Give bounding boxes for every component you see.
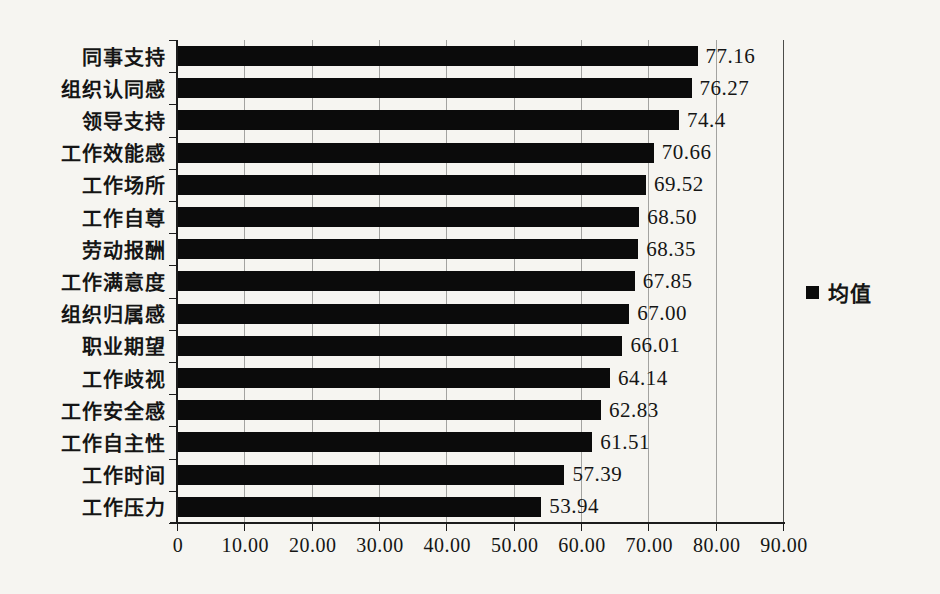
y-axis-tick [169,233,176,234]
y-axis-tick [169,491,176,492]
bar [178,271,635,291]
y-axis-tick [169,72,176,73]
bar [178,465,564,485]
y-axis-tick [169,523,176,524]
x-tick-label: 80.00 [693,534,741,557]
bar [178,400,601,420]
x-axis-line [170,522,785,524]
x-tick-label: 50.00 [491,534,539,557]
category-label: 领导支持 [0,104,166,136]
bar [178,78,692,98]
category-label: 职业期望 [0,330,166,362]
bar [178,207,639,227]
bar-value-label: 61.51 [600,426,650,458]
category-label: 工作场所 [0,169,166,201]
bar [178,497,541,517]
bar-value-label: 70.66 [662,137,712,169]
bar-value-label: 62.83 [609,394,659,426]
bar-value-label: 53.94 [549,491,599,523]
x-axis-tick [312,524,313,531]
y-axis-tick [169,330,176,331]
category-label: 组织归属感 [0,298,166,330]
x-tick-label: 0 [173,534,184,557]
bar [178,239,638,259]
category-label: 工作自尊 [0,201,166,233]
legend-marker-square-icon [806,286,819,299]
bar [178,175,646,195]
x-axis-tick [783,524,784,531]
x-axis-tick [716,524,717,531]
y-axis-tick [169,40,176,41]
bar-value-label: 67.85 [643,265,693,297]
category-label: 工作时间 [0,459,166,491]
bar-chart: 77.1676.2774.470.6669.5268.5068.3567.856… [0,0,940,594]
x-tick-label: 30.00 [356,534,404,557]
category-label: 工作自主性 [0,426,166,458]
plot-area: 77.1676.2774.470.6669.5268.5068.3567.856… [178,40,784,523]
x-axis-tick [514,524,515,531]
bar-value-label: 67.00 [637,298,687,330]
x-tick-label: 70.00 [626,534,674,557]
x-axis-tick [379,524,380,531]
x-tick-label: 10.00 [222,534,270,557]
y-axis-tick [169,426,176,427]
y-axis-tick [169,459,176,460]
bar [178,143,654,163]
x-tick-label: 40.00 [424,534,472,557]
x-tick-label: 20.00 [289,534,337,557]
x-axis-tick [446,524,447,531]
category-label: 同事支持 [0,40,166,72]
x-axis-tick [648,524,649,531]
y-axis-tick [169,169,176,170]
category-label: 工作满意度 [0,265,166,297]
bar [178,304,629,324]
bar-value-label: 66.01 [630,330,680,362]
x-axis-tick [581,524,582,531]
x-axis-tick [177,524,178,531]
bar-value-label: 74.4 [687,104,726,136]
bar [178,368,610,388]
category-label: 工作安全感 [0,394,166,426]
bar-value-label: 57.39 [572,459,622,491]
category-label: 组织认同感 [0,72,166,104]
legend-label: 均值 [828,277,872,307]
x-tick-label: 60.00 [558,534,606,557]
category-label: 工作效能感 [0,137,166,169]
bar [178,336,622,356]
bar-value-label: 68.35 [646,233,696,265]
y-axis-tick [169,201,176,202]
bar-value-label: 76.27 [700,72,750,104]
bar-value-label: 64.14 [618,362,668,394]
bar-value-label: 69.52 [654,169,704,201]
bar [178,110,679,130]
x-tick-label: 90.00 [760,534,808,557]
y-axis-tick [169,104,176,105]
y-axis-tick [169,137,176,138]
plot-right-border [783,40,784,523]
y-axis-line [176,40,178,524]
category-label: 工作歧视 [0,362,166,394]
bar [178,46,698,66]
bar [178,432,592,452]
legend: 均值 [806,277,872,307]
category-label: 工作压力 [0,491,166,523]
y-axis-tick [169,394,176,395]
y-axis-tick [169,298,176,299]
x-axis-tick [244,524,245,531]
y-axis-tick [169,265,176,266]
y-axis-tick [169,362,176,363]
bar-value-label: 77.16 [706,40,756,72]
category-label: 劳动报酬 [0,233,166,265]
bar-value-label: 68.50 [647,201,697,233]
